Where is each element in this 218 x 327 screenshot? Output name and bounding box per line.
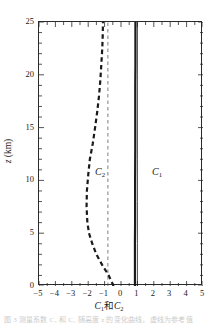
plot-canvas bbox=[39, 22, 203, 286]
x-tick-label: 5 bbox=[192, 288, 212, 298]
x-axis-title: C1和C2 bbox=[0, 298, 218, 312]
y-tick-label: 20 bbox=[16, 69, 34, 79]
y-tick-label: 15 bbox=[16, 122, 34, 132]
y-tick-label: 5 bbox=[16, 227, 34, 237]
plot-area bbox=[38, 21, 202, 285]
series-label-c2: C2 bbox=[95, 166, 105, 178]
series-line-c- bbox=[87, 22, 114, 286]
y-axis-title: z (km) bbox=[3, 129, 13, 173]
y-tick-label: 10 bbox=[16, 174, 34, 184]
figure-container: −5−4−3−2−1012345 0510152025 C1和C2 z (km)… bbox=[0, 0, 218, 327]
x-axis-title-text: C1和C2 bbox=[94, 301, 123, 311]
y-tick-label: 25 bbox=[16, 16, 34, 26]
y-tick-label: 0 bbox=[16, 280, 34, 290]
series-label-c1: C1 bbox=[152, 166, 162, 178]
y-axis-title-text: z bbox=[3, 160, 13, 164]
caption-sliver: 图 3 测量系数 C₁ 和 C₂ 随高度 z 的变化曲线，虚线为参考值 bbox=[4, 314, 214, 324]
